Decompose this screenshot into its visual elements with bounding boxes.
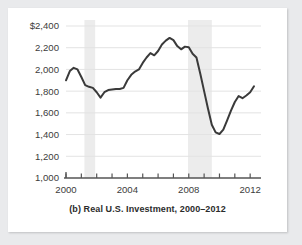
y-axis-tick-label: 1,000 [35,172,59,183]
y-axis-tick-label: 1,800 [35,86,59,97]
investment-line-chart: 1,0001,2001,4001,6001,8002,0002,200$2,40… [8,8,287,232]
y-axis-tick-label: 2,000 [35,64,59,75]
y-axis-tick-label: 1,200 [35,151,59,162]
y-axis-tick-label: 2,200 [35,42,59,53]
y-axis-tick-label: $2,400 [30,20,59,31]
x-axis-tick-labels: 2000200420082012 [55,184,261,195]
recession-bands [84,20,211,178]
x-axis-tick-label: 2012 [239,184,260,195]
y-axis-tick-label: 1,400 [35,129,59,140]
x-axis-tick-label: 2000 [55,184,76,195]
figure-caption: (b) Real U.S. Investment, 2000–2012 [8,204,287,214]
y-axis-tick-labels: 1,0001,2001,4001,6001,8002,0002,200$2,40… [30,20,59,183]
x-axis-tick-label: 2004 [117,184,139,195]
chart-figure: 1,0001,2001,4001,6001,8002,0002,200$2,40… [8,8,287,232]
x-axis-tick-label: 2008 [178,184,199,195]
figure-card: 1,0001,2001,4001,6001,8002,0002,200$2,40… [8,8,287,232]
y-axis-tick-label: 1,600 [35,107,59,118]
